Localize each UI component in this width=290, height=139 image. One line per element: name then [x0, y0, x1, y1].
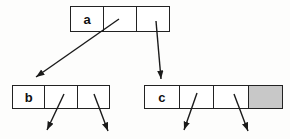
- tree-diagram: a b c: [0, 0, 290, 139]
- edge-a-cell2-to-b: [36, 19, 119, 77]
- edge-a-cell3-to-c: [156, 21, 161, 79]
- edge-c-cell2-down: [184, 93, 197, 130]
- edge-c-cell3-down: [234, 94, 248, 131]
- edges-layer: [0, 0, 290, 139]
- edge-b-cell3-down: [94, 94, 108, 131]
- edge-b-cell2-down: [47, 94, 64, 130]
